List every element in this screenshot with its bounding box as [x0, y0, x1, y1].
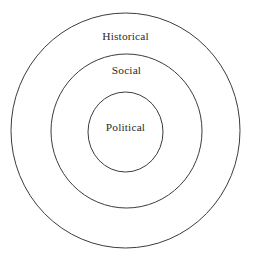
- ring-label-social: Social: [112, 65, 141, 76]
- ring-label-historical: Historical: [102, 31, 148, 42]
- ring-label-political: Political: [106, 122, 145, 133]
- concentric-circles-diagram: Historical Social Political: [0, 0, 254, 261]
